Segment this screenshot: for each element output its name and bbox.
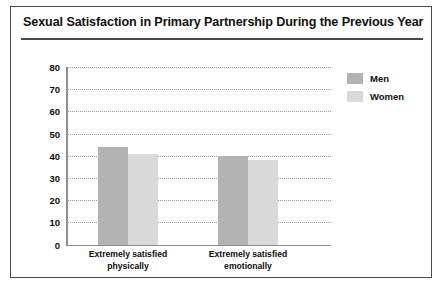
y-tick-label-60: 60 <box>49 106 60 117</box>
y-tick-label-40: 40 <box>49 150 60 161</box>
y-tick-label-70: 70 <box>49 84 60 95</box>
chart-legend: Men Women <box>347 69 404 105</box>
y-tick-label-0: 0 <box>55 239 60 250</box>
gridline-60 <box>66 111 331 112</box>
legend-item-women: Women <box>347 87 404 105</box>
y-tick-label-30: 30 <box>49 172 60 183</box>
legend-swatch-men <box>347 73 363 84</box>
title-divider <box>21 38 423 40</box>
bar-women-group-2 <box>248 160 278 244</box>
bar-men-group-1 <box>98 147 128 245</box>
gridline-80 <box>66 67 331 68</box>
chart-page: Sexual Satisfaction in Primary Partnersh… <box>0 0 442 285</box>
legend-label-women: Women <box>370 91 404 102</box>
y-tick-label-10: 10 <box>49 217 60 228</box>
y-tick-label-50: 50 <box>49 128 60 139</box>
legend-item-men: Men <box>347 69 404 87</box>
x-category-label-2: Extremely satisfiedemotionally <box>183 249 313 272</box>
y-tick-label-80: 80 <box>49 62 60 73</box>
plot-area: 80706050403020100 Extremely satisfiedphy… <box>66 67 331 246</box>
gridline-50 <box>66 134 331 135</box>
x-axis-line <box>66 245 331 247</box>
x-category-label-1: Extremely satisfiedphysically <box>63 249 193 272</box>
bar-women-group-1 <box>128 154 158 245</box>
chart-title: Sexual Satisfaction in Primary Partnersh… <box>23 15 421 29</box>
y-tick-label-20: 20 <box>49 195 60 206</box>
legend-label-men: Men <box>370 73 389 84</box>
legend-swatch-women <box>347 91 363 102</box>
y-axis-line <box>66 67 68 246</box>
gridline-70 <box>66 89 331 90</box>
chart-frame: Sexual Satisfaction in Primary Partnersh… <box>10 6 432 278</box>
bar-men-group-2 <box>218 156 248 245</box>
